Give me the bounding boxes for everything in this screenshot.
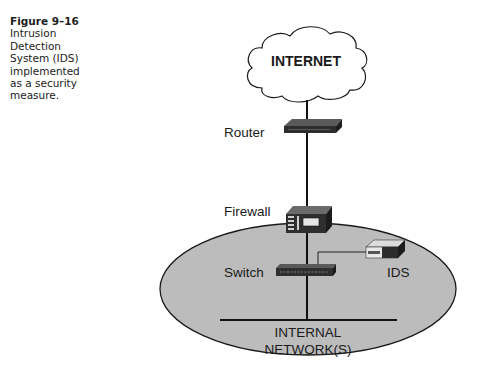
firewall-label: Firewall [224,204,271,219]
internal-network-label-line2: NETWORK(S) [265,342,352,357]
switch-label: Switch [224,265,264,280]
ids-icon [366,240,405,258]
internet-label: INTERNET [271,53,341,69]
switch-icon [276,264,336,276]
internal-network-label-line1: INTERNAL [275,325,342,340]
router-label: Router [224,125,265,140]
network-diagram: INTERNET Router Firewall Switch [0,0,480,374]
router-icon [284,119,342,133]
ids-label: IDS [387,265,410,280]
firewall-icon [286,206,332,233]
